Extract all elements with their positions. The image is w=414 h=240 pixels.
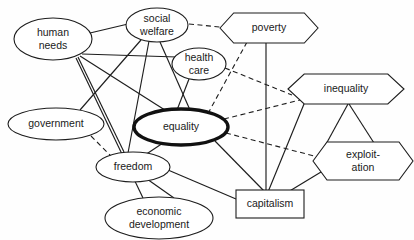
node-equality[interactable]: equality bbox=[134, 109, 228, 145]
node-label-government: government bbox=[28, 117, 84, 129]
node-label-social_welfare: social bbox=[144, 12, 171, 24]
node-label-exploitation: exploit- bbox=[346, 148, 380, 160]
concept-map-canvas: humanneedssocialwelfarehealthcarepoverty… bbox=[0, 0, 414, 240]
edge-equality-to-capitalism bbox=[215, 141, 264, 191]
node-freedom[interactable]: freedom bbox=[96, 152, 170, 182]
edge-human_needs-to-health_care bbox=[82, 54, 177, 57]
node-label-freedom: freedom bbox=[114, 160, 153, 172]
edge-equality-to-inequality bbox=[224, 100, 300, 119]
node-inequality[interactable]: inequality bbox=[288, 74, 404, 104]
node-exploitation[interactable]: exploit-ation bbox=[313, 142, 413, 180]
edge-exploitation-to-capitalism bbox=[288, 172, 321, 192]
node-label-equality: equality bbox=[163, 120, 200, 132]
node-label2-human_needs: needs bbox=[39, 39, 68, 51]
node-label-economic_development: economic bbox=[137, 205, 182, 217]
node-label-human_needs: human bbox=[37, 26, 69, 38]
edge-freedom-to-economic_development bbox=[147, 179, 174, 198]
node-label-inequality: inequality bbox=[324, 82, 369, 94]
node-label2-social_welfare: welfare bbox=[139, 25, 174, 37]
node-human_needs[interactable]: humanneeds bbox=[14, 18, 92, 60]
node-label2-health_care: care bbox=[189, 64, 210, 76]
edge-health_care-to-inequality bbox=[225, 68, 292, 95]
node-label-capitalism: capitalism bbox=[247, 197, 294, 209]
node-label-poverty: poverty bbox=[252, 21, 287, 33]
edge-inequality-to-exploitation_right bbox=[349, 104, 374, 143]
node-label2-economic_development: development bbox=[129, 218, 189, 230]
edge-human_needs-to-social_welfare bbox=[90, 24, 128, 33]
node-layer: humanneedssocialwelfarehealthcarepoverty… bbox=[8, 8, 413, 239]
node-label-health_care: health bbox=[185, 51, 214, 63]
edge-freedom-to-capitalism bbox=[168, 170, 236, 199]
edge-social_welfare-to-poverty bbox=[189, 24, 220, 27]
edge-social_welfare-to-government bbox=[80, 40, 141, 110]
edge-human_needs-to-equality bbox=[80, 56, 168, 112]
edge-equality-to-exploitation bbox=[226, 133, 318, 157]
node-poverty[interactable]: poverty bbox=[220, 13, 318, 43]
edge-inequality-to-exploitation bbox=[325, 104, 348, 146]
concept-map-diagram: humanneedssocialwelfarehealthcarepoverty… bbox=[0, 0, 414, 240]
node-health_care[interactable]: healthcare bbox=[172, 48, 226, 80]
node-label2-exploitation: ation bbox=[352, 161, 375, 173]
node-social_welfare[interactable]: socialwelfare bbox=[126, 8, 188, 42]
edge-government-to-freedom bbox=[91, 136, 113, 158]
edge-inequality-to-capitalism bbox=[268, 104, 304, 192]
node-government[interactable]: government bbox=[8, 108, 104, 140]
node-capitalism[interactable]: capitalism bbox=[236, 190, 304, 218]
node-economic_development[interactable]: economicdevelopment bbox=[105, 197, 213, 239]
